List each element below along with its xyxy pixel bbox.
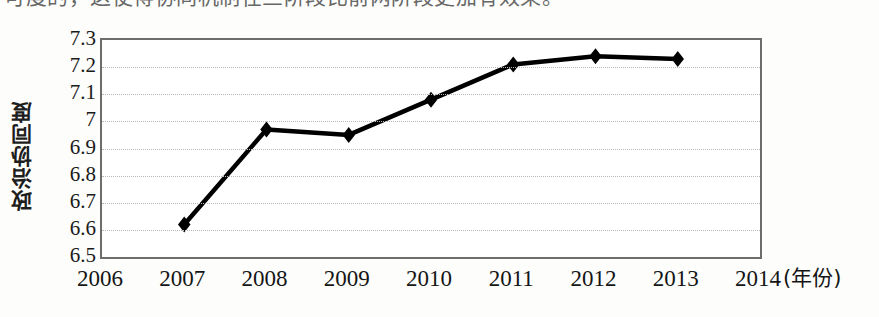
data-point-marker — [343, 127, 355, 143]
x-axis-unit-label: (年份) — [783, 266, 841, 290]
y-axis-tick-label: 7.1 — [44, 82, 96, 103]
x-axis-tick-label: 2006 — [77, 266, 123, 291]
chart-figure-page: 可度的，这使得协同机制在三阶段比前两阶段更加有效果。 政治协同度 7.37.27… — [0, 0, 879, 317]
y-axis-tick-label: 7.2 — [44, 55, 96, 76]
x-axis-tick-label: 2007 — [159, 266, 205, 291]
cropped-body-text: 可度的，这使得协同机制在三阶段比前两阶段更加有效果。 — [4, 0, 563, 10]
x-axis-tick-label: 2013 — [653, 266, 699, 291]
y-axis-title-text: 政治协同度 — [8, 101, 38, 211]
x-axis-tick-label: 2010 — [406, 266, 452, 291]
grid-line — [102, 230, 760, 231]
line-chart: 政治协同度 7.37.27.176.96.86.76.66.5 (年份) 200… — [0, 18, 879, 317]
y-axis-tick-label: 6.6 — [44, 217, 96, 238]
grid-line — [102, 121, 760, 122]
series-polyline — [184, 56, 678, 224]
y-axis-title: 政治协同度 — [2, 66, 44, 246]
data-point-marker — [507, 56, 519, 72]
x-axis-tick-label: 2009 — [324, 266, 370, 291]
y-axis-tick-label: 6.8 — [44, 163, 96, 184]
x-axis-tick-label: 2014 — [735, 266, 781, 291]
x-axis-tick-label: 2012 — [571, 266, 617, 291]
plot-area — [100, 38, 762, 259]
y-axis-tick-label: 6.5 — [44, 245, 96, 266]
series-markers — [178, 48, 684, 232]
grid-line — [102, 176, 760, 177]
data-point-marker — [672, 51, 684, 67]
x-axis-tick-labels: (年份) 20062007200820092010201120122013201… — [0, 266, 879, 300]
data-point-marker — [589, 48, 601, 64]
y-axis-tick-label: 7 — [44, 109, 96, 130]
cropped-body-text-line: 可度的，这使得协同机制在三阶段比前两阶段更加有效果。 — [0, 0, 879, 15]
x-axis-tick-label: 2008 — [242, 266, 288, 291]
y-axis-tick-labels: 7.37.27.176.96.86.76.66.5 — [44, 18, 96, 278]
grid-line — [102, 67, 760, 68]
grid-line — [102, 149, 760, 150]
y-axis-tick-label: 6.9 — [44, 136, 96, 157]
x-axis-tick-label: 2011 — [489, 266, 534, 291]
y-axis-tick-label: 6.7 — [44, 190, 96, 211]
grid-line — [102, 203, 760, 204]
grid-line — [102, 94, 760, 95]
y-axis-tick-label: 7.3 — [44, 28, 96, 49]
